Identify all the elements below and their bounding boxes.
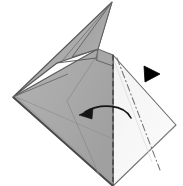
origami-figure [0, 0, 183, 186]
origami-diagram-root [0, 0, 183, 186]
